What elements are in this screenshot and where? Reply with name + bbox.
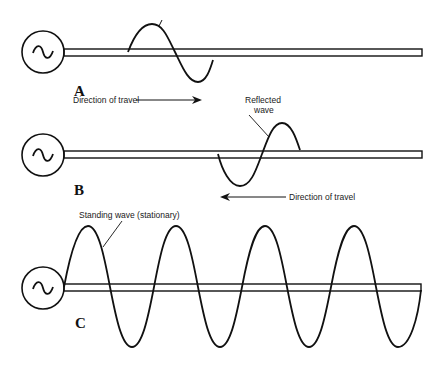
panel-c: Standing wave (stationary) C [22,210,421,347]
reflected-wave [218,123,300,186]
panel-a: A Direction of travel [22,20,422,105]
ac-source-icon [22,267,64,309]
panel-label-b: B [74,182,84,198]
panel-b: Reflected wave B Direction of travel [22,95,422,202]
transmission-line-a [64,49,422,56]
standing-wave-leader [103,221,122,247]
arrow-right-icon [136,96,202,104]
wave-tick [159,20,162,26]
wave-diagram: A Direction of travel Reflected wave B D… [0,0,444,371]
standing-wave [64,226,421,347]
reflected-wave-callout-line1: Reflected [245,95,281,105]
arrow-left-icon [220,193,286,201]
ac-source-icon [22,31,64,73]
ac-source-icon [22,134,64,176]
panel-label-c: C [75,315,86,331]
direction-of-travel-label-a: Direction of travel [73,95,139,105]
reflected-wave-callout-line2: wave [253,105,274,115]
incident-wave [128,24,213,82]
direction-of-travel-label-b: Direction of travel [289,192,355,202]
standing-wave-callout: Standing wave (stationary) [79,210,180,220]
reflected-wave-leader [249,115,269,137]
transmission-line-b [64,151,422,158]
